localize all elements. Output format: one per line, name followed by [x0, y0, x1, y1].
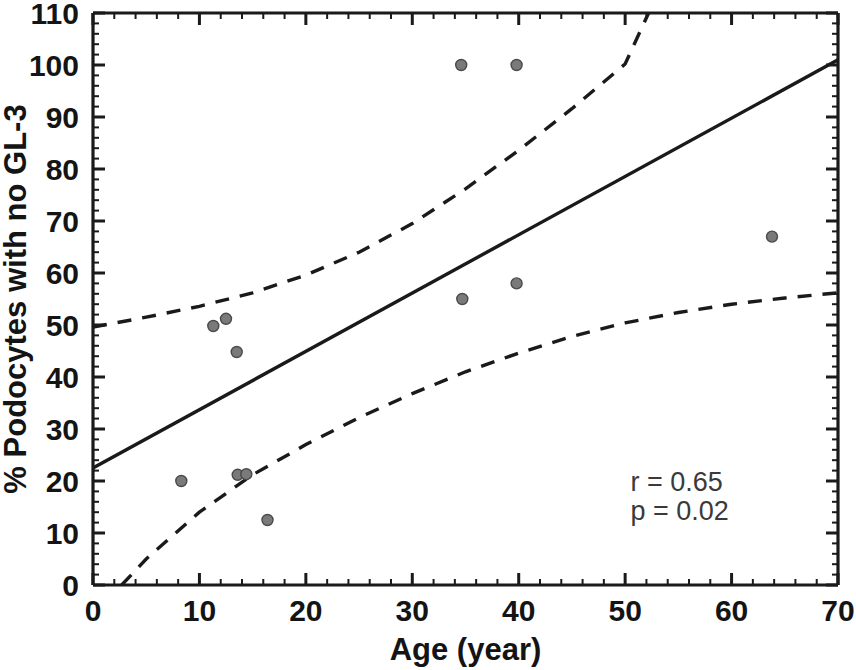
- data-point: [511, 278, 522, 289]
- lower-confidence-band: [122, 293, 838, 585]
- x-axis-tick-label: 40: [502, 594, 535, 627]
- y-axis-tick-label: 50: [46, 309, 79, 342]
- x-axis-title: Age (year): [390, 632, 542, 667]
- y-axis-tick-label: 10: [46, 517, 79, 550]
- y-axis-tick-label: 30: [46, 413, 79, 446]
- x-axis-tick-label: 60: [715, 594, 748, 627]
- scatter-plot-figure: 0102030405060700102030405060708090100110…: [0, 0, 856, 670]
- data-point: [231, 347, 242, 358]
- y-axis-tick-label: 110: [31, 0, 79, 30]
- data-point: [208, 321, 219, 332]
- data-point: [176, 476, 187, 487]
- y-axis-tick-label: 80: [46, 153, 79, 186]
- x-axis-tick-label: 70: [821, 594, 854, 627]
- x-axis-tick-label: 30: [396, 594, 429, 627]
- y-axis-tick-label: 90: [46, 101, 79, 134]
- data-point: [457, 294, 468, 305]
- y-axis-tick-label: 70: [46, 205, 79, 238]
- y-axis-tick-label: 100: [29, 49, 79, 82]
- data-point: [221, 313, 232, 324]
- data-point: [456, 60, 467, 71]
- data-point: [767, 231, 778, 242]
- regression-line: [93, 60, 838, 468]
- p-value: p = 0.02: [630, 496, 728, 526]
- y-axis-tick-label: 40: [46, 361, 79, 394]
- x-axis-tick-label: 0: [85, 594, 102, 627]
- y-axis-tick-label: 60: [46, 257, 79, 290]
- correlation-coefficient: r = 0.65: [630, 467, 722, 497]
- y-axis-tick-label: 0: [62, 569, 79, 602]
- chart-canvas: 0102030405060700102030405060708090100110…: [0, 0, 856, 670]
- upper-confidence-band: [93, 13, 649, 327]
- y-axis-tick-label: 20: [46, 465, 79, 498]
- data-point: [511, 60, 522, 71]
- y-axis-title: % Podocytes with no GL-3: [0, 104, 33, 493]
- x-axis-tick-label: 20: [289, 594, 322, 627]
- data-point: [241, 469, 252, 480]
- x-axis-tick-label: 10: [183, 594, 216, 627]
- x-axis-tick-label: 50: [608, 594, 641, 627]
- data-point: [262, 515, 273, 526]
